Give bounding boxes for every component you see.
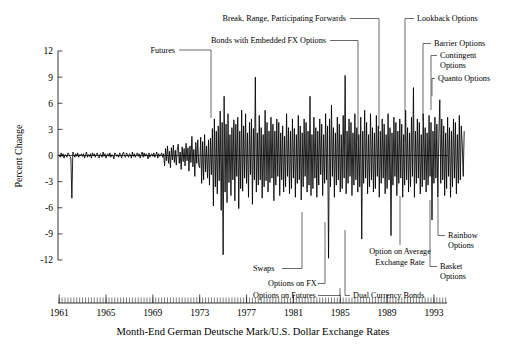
annotation-swaps-leader <box>282 212 302 269</box>
x-tick-label: 1989 <box>378 308 397 318</box>
x-tick-label: 1981 <box>284 308 303 318</box>
x-tick-label: 1973 <box>190 308 209 318</box>
annotation-swaps: Swaps <box>253 212 302 273</box>
annotation-basket-label-line2: Options <box>440 272 466 281</box>
x-tick-label: 1993 <box>424 308 443 318</box>
y-tick-labels: 129630-3-6-9-12 <box>40 46 53 265</box>
annotation-rainbow-label-line2: Options <box>448 241 474 250</box>
annotation-rainbow-leader <box>438 198 445 236</box>
annotation-options-on-fx: Options on FX <box>268 222 325 288</box>
annotation-futures-label: Futures <box>150 46 175 55</box>
y-tick-label: 3 <box>48 125 53 135</box>
annotation-basket-leader <box>430 200 437 267</box>
x-axis-caption: Month-End German Deutsche Mark/U.S. Doll… <box>117 326 390 337</box>
annotation-futures-leader <box>179 50 211 118</box>
x-tick-label: 1985 <box>331 308 350 318</box>
annotation-bonds-embedded-fx-leader <box>330 41 358 141</box>
annotation-quanto-label: Quanto Options <box>438 74 490 83</box>
annotation-rainbow-options: Rainbow Options <box>438 198 478 250</box>
plot-area <box>58 75 464 258</box>
annotation-quanto-leader <box>432 79 435 97</box>
y-axis-group: 129630-3-6-9-12 Percent Change <box>13 46 63 265</box>
annotation-rainbow-label-line1: Rainbow <box>448 231 478 240</box>
series-line-dm-usd-percent-change <box>59 75 464 258</box>
annotation-option-on-average-exchange-rate: Option on Average Exchange Rate <box>369 196 431 267</box>
x-tick-label: 1965 <box>97 308 116 318</box>
annotation-break-range-participating: Break, Range, Participating Forwards <box>223 14 379 129</box>
annotation-futures: Futures <box>150 46 211 118</box>
x-axis-group: 196119651969197319771981198519891993 Mon… <box>50 295 447 338</box>
y-tick-label: -12 <box>40 255 53 265</box>
annotation-bonds-embedded-fx-label: Bonds with Embedded FX Options <box>211 36 326 45</box>
annotation-options-on-fx-label: Options on FX <box>268 279 317 288</box>
annotation-options-on-futures: Options on Futures <box>253 288 340 300</box>
y-tick-label: 6 <box>48 99 53 109</box>
y-axis-title: Percent Change <box>13 124 24 188</box>
x-tick-label: 1961 <box>50 308 69 318</box>
y-tick-label: 12 <box>44 46 54 56</box>
annotation-dual-currency-bonds-leader <box>345 230 350 296</box>
annotation-options-on-futures-label: Options on Futures <box>253 291 316 300</box>
annotation-contingent-label-line2: Options <box>440 61 466 70</box>
annotation-option-on-average-label-line2: Exchange Rate <box>375 258 425 267</box>
x-tick-label: 1969 <box>143 308 162 318</box>
annotation-contingent-label-line1: Contingent <box>440 51 477 60</box>
annotation-barrier-leader <box>423 44 431 121</box>
y-tick-label: 0 <box>48 151 53 161</box>
x-tick-label: 1977 <box>237 308 256 318</box>
y-tick-label: -6 <box>45 203 53 213</box>
annotation-options-on-futures-leader <box>318 288 340 296</box>
chart-figure: 129630-3-6-9-12 Percent Change 196119651… <box>0 0 512 357</box>
annotation-barrier-label: Barrier Options <box>434 39 485 48</box>
x-tick-labels: 196119651969197319771981198519891993 <box>50 308 444 318</box>
annotation-options-on-fx-leader <box>318 222 325 284</box>
y-tick-label: -3 <box>45 177 53 187</box>
y-tick-label: -9 <box>45 229 53 239</box>
annotation-lookback-label: Lookback Options <box>417 14 478 23</box>
annotation-dual-currency-bonds-label: Dual Currency Bonds <box>353 291 424 300</box>
annotation-basket-label-line1: Basket <box>440 262 463 271</box>
annotation-quanto-options: Quanto Options <box>432 74 490 96</box>
annotation-break-range-label: Break, Range, Participating Forwards <box>223 14 346 23</box>
y-tick-label: 9 <box>48 73 53 83</box>
chart-svg: 129630-3-6-9-12 Percent Change 196119651… <box>0 0 512 357</box>
annotation-option-on-average-label-line1: Option on Average <box>369 247 431 256</box>
annotation-swaps-label: Swaps <box>253 264 274 273</box>
annotation-bonds-embedded-fx: Bonds with Embedded FX Options <box>211 36 358 140</box>
